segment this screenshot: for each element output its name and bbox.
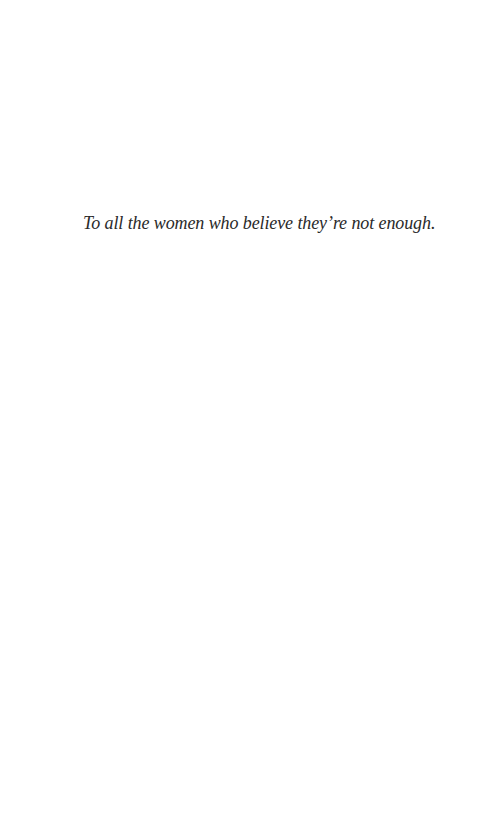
dedication-text: To all the women who believe they’re not…: [83, 212, 435, 234]
dedication-page: To all the women who believe they’re not…: [0, 0, 481, 818]
